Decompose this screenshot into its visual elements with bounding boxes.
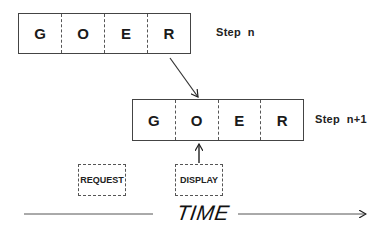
connector-arrows bbox=[0, 0, 387, 234]
time-label: TIME bbox=[175, 201, 231, 225]
shift-arrow bbox=[170, 58, 198, 97]
